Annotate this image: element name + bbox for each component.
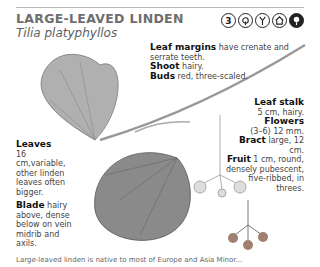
annotation-leaves: Leaves16 cm,variable, other linden leave… bbox=[16, 140, 74, 249]
annotation-right-column: Leaf stalk5 cm, hairy. Flowers(3–6) 12 m… bbox=[224, 98, 304, 193]
lower-leaf bbox=[95, 153, 191, 241]
upper-leaf bbox=[41, 54, 118, 140]
footer-text: Large-leaved linden is native to most of… bbox=[16, 256, 306, 264]
annotation-leaf-margins: Leaf margins have crenate and serrate te… bbox=[150, 43, 300, 81]
